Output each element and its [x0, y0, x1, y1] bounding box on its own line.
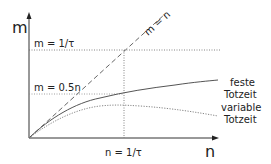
label-m-half-n: m = 0.5n [34, 82, 81, 93]
label-m-eq-n: m = n [142, 9, 172, 38]
label-n-1-over-tau: n = 1/τ [105, 147, 142, 158]
deadtime-diagram: m n m = 1/τ m = 0.5n n = 1/τ m = n feste… [0, 0, 271, 164]
curve-variable-totzeit [29, 105, 218, 138]
label-variable: variable [221, 102, 261, 113]
label-feste-totzeit: Totzeit [223, 89, 257, 100]
x-axis-label: n [205, 142, 215, 161]
label-m-1-over-tau: m = 1/τ [34, 38, 74, 49]
x-axis-arrow-icon [212, 136, 219, 141]
label-feste: feste [230, 77, 255, 88]
label-variable-totzeit: Totzeit [223, 114, 257, 125]
y-axis-label: m [12, 18, 28, 37]
